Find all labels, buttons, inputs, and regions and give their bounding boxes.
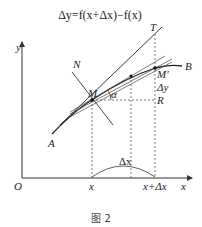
x-plus-dx-tick-label: x+Δx (142, 180, 167, 192)
label-alpha: α (111, 88, 117, 100)
label-T: T (150, 21, 157, 33)
label-B: B (185, 60, 192, 72)
x-tick-label: x (88, 180, 94, 192)
label-A: A (47, 137, 55, 149)
point-intermediate (130, 75, 133, 78)
secant-line-2 (70, 56, 165, 112)
diagram-canvas: Δy=f(x+Δx)−f(x) y O x x x+Δx Δx M M' R T… (0, 0, 202, 227)
formula-text: Δy=f(x+Δx)−f(x) (58, 8, 142, 22)
y-axis-label: y (15, 41, 21, 53)
origin-label: O (14, 180, 22, 192)
label-M-prime: M' (156, 68, 169, 80)
figure-caption: 图 2 (91, 213, 111, 224)
delta-x-label: Δx (119, 155, 132, 167)
derivative-diagram: Δy=f(x+Δx)−f(x) y O x x x+Δx Δx M M' R T… (0, 0, 202, 227)
label-N: N (72, 58, 81, 70)
delta-x-arc (92, 166, 155, 177)
x-axis-label: x (180, 180, 186, 192)
label-M: M (87, 87, 98, 99)
label-R: R (156, 94, 164, 106)
label-delta-y: Δy (156, 81, 168, 93)
